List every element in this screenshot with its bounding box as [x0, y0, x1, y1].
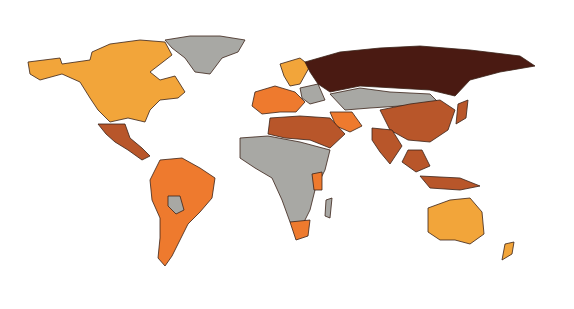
- region-japan: [456, 100, 468, 124]
- region-south-america: [150, 158, 215, 266]
- region-new-zealand: [502, 242, 514, 260]
- region-russia: [305, 46, 535, 96]
- region-madagascar: [325, 198, 332, 218]
- world-choropleth-map: [0, 0, 574, 309]
- region-australia: [428, 198, 484, 244]
- region-central-america: [98, 124, 150, 160]
- region-greenland: [165, 36, 245, 74]
- region-southern-africa: [290, 220, 310, 240]
- region-western-europe: [252, 86, 305, 114]
- region-southeast-asia: [402, 150, 480, 190]
- region-east-africa: [312, 172, 322, 190]
- region-north-america: [28, 40, 185, 122]
